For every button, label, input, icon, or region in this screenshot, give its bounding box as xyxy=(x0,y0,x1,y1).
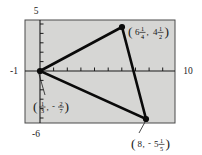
vertex-left-point xyxy=(37,68,43,74)
figure-container: 5 -1 10 -6 ( 6 1 4 , 4 1 2 ) ( 1 3 , - 2 xyxy=(0,0,202,155)
y-sign-left: - xyxy=(52,101,55,111)
y-frac-num-bottom-right: 1 xyxy=(160,137,163,144)
paren-open-bottom-right: ( xyxy=(131,136,136,151)
y-whole-bottom-right: 5 xyxy=(154,139,159,149)
axis-label-x-left: -1 xyxy=(10,66,18,76)
paren-open-top-right: ( xyxy=(128,24,133,39)
vertex-bottom-right-point xyxy=(143,116,149,122)
paren-open-left: ( xyxy=(33,99,38,114)
y-whole-top-right: 4 xyxy=(153,27,158,37)
axis-label-y-top: 5 xyxy=(34,6,39,16)
x-frac-den-left: 3 xyxy=(41,107,44,114)
point-label-bottom-right: ( 8 , - 5 1 5 ) xyxy=(131,136,170,152)
paren-close-left: ) xyxy=(65,99,70,114)
y-frac-den-top-right: 2 xyxy=(159,33,162,40)
x-frac-num-top-right: 1 xyxy=(141,25,144,32)
vertex-top-right-point xyxy=(119,24,125,30)
comma-top-right: , xyxy=(147,27,149,37)
paren-close-top-right: ) xyxy=(165,24,170,39)
y-frac-den-bottom-right: 5 xyxy=(160,145,163,152)
y-frac-num-top-right: 1 xyxy=(159,25,162,32)
axis-label-y-bottom: -6 xyxy=(32,129,40,139)
axis-label-x-right: 10 xyxy=(183,66,193,76)
x-whole-top-right: 6 xyxy=(135,27,140,37)
y-sign-bottom-right: - xyxy=(148,138,151,148)
comma-bottom-right: , xyxy=(143,139,145,149)
leader-line-bottom-right-vertex xyxy=(139,122,145,133)
y-frac-den-left: 7 xyxy=(59,107,62,114)
y-frac-num-left: 2 xyxy=(59,100,62,107)
paren-close-bottom-right: ) xyxy=(166,136,171,151)
x-frac-num-left: 1 xyxy=(41,100,44,107)
comma-left: , xyxy=(47,102,49,112)
x-frac-den-top-right: 4 xyxy=(141,33,144,40)
coordinate-plane-figure: 5 -1 10 -6 ( 6 1 4 , 4 1 2 ) ( 1 3 , - 2 xyxy=(0,0,202,155)
